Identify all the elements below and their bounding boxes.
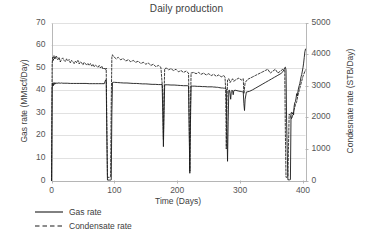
y-right-tick-label: 3000 (312, 80, 342, 90)
y-right-tick-label: 0 (312, 175, 342, 185)
y-right-tick-label: 4000 (312, 48, 342, 58)
y-left-tick-label: 30 (20, 107, 46, 117)
legend-item-gas-rate: Gas rate (34, 205, 132, 219)
legend-line-solid-icon (34, 208, 64, 216)
legend-label-gas-rate: Gas rate (69, 207, 102, 217)
y-left-tick-label: 20 (20, 129, 46, 139)
chart-legend: Gas rate Condensate rate (34, 205, 132, 233)
chart-figure: Daily production Gas rate (MMscf/Day) Co… (0, 0, 373, 241)
gridlines (52, 24, 306, 182)
x-tick-label: 100 (97, 185, 131, 195)
y-right-tick-label: 5000 (312, 17, 342, 27)
y-left-tick-label: 0 (20, 175, 46, 185)
x-tick-label: 0 (35, 185, 69, 195)
series-line-condensate-rate (52, 55, 306, 181)
x-tick-label: 300 (223, 185, 257, 195)
plot-frame (53, 24, 309, 184)
x-tick-label: 400 (286, 185, 320, 195)
y-right-tick-label: 2000 (312, 111, 342, 121)
legend-label-condensate-rate: Condensate rate (69, 221, 132, 231)
y-right-tick-label: 1000 (312, 143, 342, 153)
y-left-tick-label: 10 (20, 152, 46, 162)
y-left-tick-label: 40 (20, 84, 46, 94)
y-left-tick-label: 70 (20, 17, 46, 27)
legend-line-dashed-icon (34, 222, 64, 230)
legend-item-condensate-rate: Condensate rate (34, 219, 132, 233)
y-left-tick-label: 50 (20, 62, 46, 72)
x-tick-label: 200 (160, 185, 194, 195)
y-left-tick-label: 60 (20, 39, 46, 49)
